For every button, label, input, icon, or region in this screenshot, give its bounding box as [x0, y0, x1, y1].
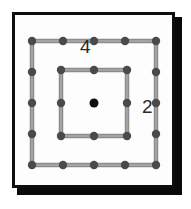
outer-square-node	[152, 161, 160, 169]
outer-square-node	[121, 161, 129, 169]
outer-square-node	[152, 99, 160, 107]
outer-square-node	[59, 161, 67, 169]
center-point-group	[90, 99, 99, 108]
inner-square-node	[123, 99, 131, 107]
outer-square-node	[59, 37, 67, 45]
outer-square-node	[28, 99, 36, 107]
outer-square-node	[90, 37, 98, 45]
inner-square-node	[123, 132, 131, 140]
inner-square-node	[57, 66, 65, 74]
outer-square-node	[28, 161, 36, 169]
outer-square-node	[152, 130, 160, 138]
outer-square-label: 4	[80, 37, 91, 56]
outer-square-node	[90, 161, 98, 169]
inner-square-node	[123, 66, 131, 74]
inner-square-node	[90, 132, 98, 140]
outer-square-node	[152, 68, 160, 76]
inner-square-node	[57, 99, 65, 107]
figure-root: 4 2	[0, 0, 191, 209]
outer-square-node	[121, 37, 129, 45]
outer-square-node	[28, 130, 36, 138]
inner-square-node	[90, 66, 98, 74]
center-node	[90, 99, 99, 108]
outer-square-node	[28, 37, 36, 45]
outer-square-node	[152, 37, 160, 45]
inner-square-node	[57, 132, 65, 140]
inner-square-label: 2	[142, 97, 153, 116]
lattice-diagram	[0, 0, 191, 209]
outer-square-node	[28, 68, 36, 76]
